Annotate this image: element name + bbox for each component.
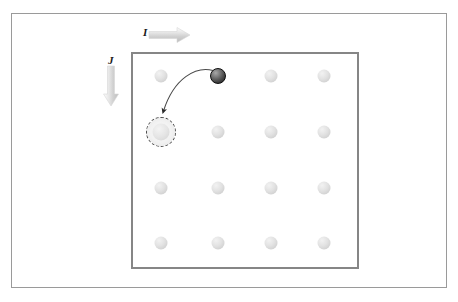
lattice-diagram-figure: I J (0, 0, 458, 302)
j-axis-label: J (108, 55, 114, 66)
lattice-box (131, 52, 359, 269)
i-axis-label: I (143, 27, 147, 38)
